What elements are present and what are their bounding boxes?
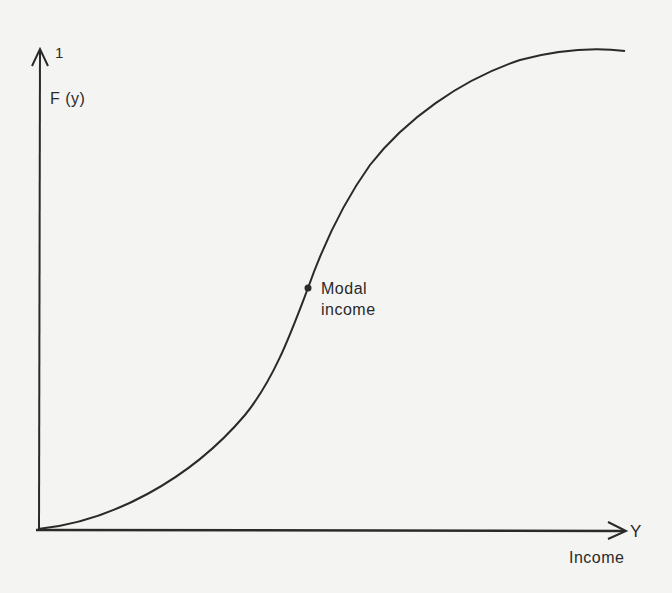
x-axis (36, 530, 624, 531)
modal-label-line2: income (321, 302, 376, 318)
curve-gap (390, 134, 393, 137)
modal-label-line1: Modal (321, 281, 367, 297)
y-max-label: 1 (55, 45, 64, 60)
cdf-diagram: 1 F (y) Modal income Y Income (0, 0, 672, 593)
y-axis (39, 50, 40, 531)
modal-income-point (305, 285, 312, 292)
curve-gap (378, 142, 382, 146)
curve-gap (366, 156, 370, 160)
x-axis-symbol: Y (630, 523, 642, 540)
y-axis-label: F (y) (50, 91, 85, 107)
x-axis-label: Income (569, 550, 624, 566)
